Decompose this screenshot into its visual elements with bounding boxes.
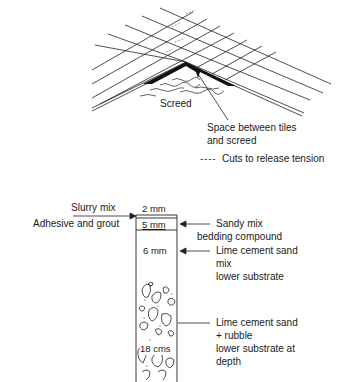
rubble-label-line4: depth [216, 356, 241, 368]
lime-mix-label-line3: lower substrate [216, 271, 284, 283]
tension-cut-marks [166, 10, 196, 52]
thickness-slurry: 2 mm [142, 203, 166, 215]
tile-grid-lines [92, 8, 331, 116]
legend-dash-symbol: - - - - [200, 153, 215, 165]
space-label-line1: Space between tiles [207, 122, 297, 134]
thickness-rubble: 18 cms [140, 343, 171, 355]
space-label-line2: and screed [207, 135, 256, 147]
screed-label: Screed [160, 98, 192, 110]
adhesive-grout-label: Adhesive and grout [33, 218, 119, 230]
lime-mix-label-line2: mix [216, 258, 232, 270]
legend-cuts-label: Cuts to release tension [222, 153, 324, 165]
sandy-mix-label: Sandy mix [216, 218, 263, 230]
rubble-stones [138, 282, 175, 380]
slurry-mix-label: Slurry mix [71, 202, 115, 214]
bedding-compound-label: bedding compound [197, 231, 282, 243]
rubble-label-line3: lower substrate at [216, 343, 295, 355]
thickness-lime: 6 mm [143, 245, 167, 257]
rubble-dots [143, 293, 172, 366]
rubble-label-line2: + rubble [216, 330, 252, 342]
lime-mix-label-line1: Lime cement sand [216, 245, 298, 257]
thickness-sandy: 5 mm [142, 219, 166, 231]
rubble-label-line1: Lime cement sand [216, 317, 298, 329]
